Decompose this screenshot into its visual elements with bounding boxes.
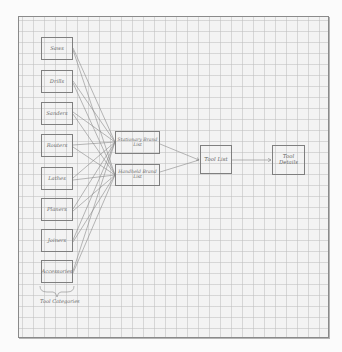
stationary-brand-list-box: Stationary Brand List	[115, 131, 160, 154]
category-box-planers: Planers	[41, 198, 73, 221]
category-box-joiners: Joiners	[41, 229, 73, 252]
category-box-lathes: Lathes	[41, 167, 73, 190]
category-box-sanders: Sanders	[41, 102, 73, 125]
tool-list-box: Tool List	[200, 145, 232, 174]
handheld-brand-list-box: Handheld Brand List	[115, 164, 160, 186]
tool-details-box: Tool Details	[272, 145, 305, 175]
categories-caption: Tool Categories	[40, 298, 80, 304]
category-box-drills: Drills	[41, 70, 73, 93]
category-box-routers: Routers	[41, 134, 73, 157]
category-box-saws: Saws	[41, 37, 73, 60]
category-box-accessories: Accessories	[41, 260, 73, 283]
